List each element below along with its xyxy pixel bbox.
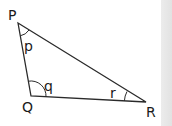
angle-label-q: q: [44, 78, 53, 94]
vertex-label-p: P: [8, 7, 16, 23]
angle-label-p: p: [24, 38, 33, 54]
triangle-diagram: P Q R p q r: [0, 0, 172, 126]
vertex-label-q: Q: [22, 99, 33, 115]
triangle-pqr: [18, 23, 146, 102]
angle-label-r: r: [110, 85, 116, 101]
angle-arc-r: [124, 92, 127, 101]
angle-arc-p: [20, 30, 29, 36]
vertex-label-r: R: [146, 104, 156, 120]
